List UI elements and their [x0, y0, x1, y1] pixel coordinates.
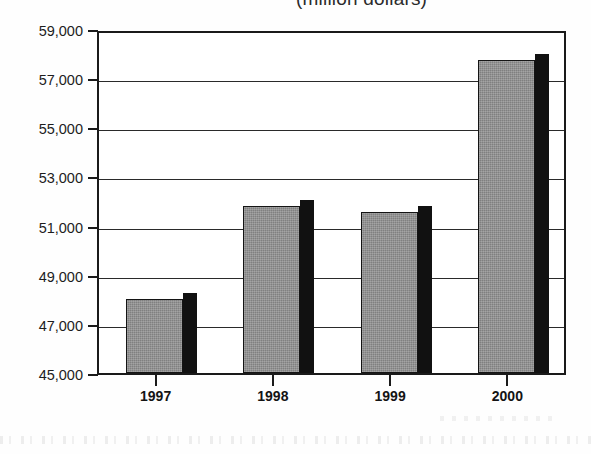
plot-area: [97, 31, 566, 375]
y-axis-tick-label: 57,000: [3, 72, 83, 88]
y-axis-tick-label: 49,000: [3, 269, 83, 285]
y-axis-tick-label: 47,000: [3, 318, 83, 334]
bar-1999: [361, 212, 432, 373]
bar-shadow-face: [418, 206, 432, 373]
y-axis-tick-label: 45,000: [3, 367, 83, 383]
x-axis-tick-label: 1999: [345, 388, 435, 404]
x-axis-tick-mark: [272, 375, 274, 386]
x-axis-tick-label: 1997: [111, 388, 201, 404]
bar-shadow-face: [183, 293, 197, 373]
x-axis-tick-label: 1998: [228, 388, 318, 404]
bar-front-face: [243, 206, 300, 373]
x-axis-tick-mark: [506, 375, 508, 386]
bar-1997: [126, 299, 197, 373]
chart-page: (million dollars) 59,00057,00055,00053,0…: [0, 0, 591, 454]
scan-artifact-speckle: [440, 416, 560, 421]
chart-title-text: (million dollars): [296, 0, 427, 10]
x-axis-tick-label: 2000: [462, 388, 552, 404]
bar-front-face: [126, 299, 183, 373]
bar-2000: [478, 60, 549, 373]
y-axis-tick-label: 51,000: [3, 220, 83, 236]
bar-front-face: [478, 60, 535, 373]
bar-front-face: [361, 212, 418, 373]
x-axis-tick-mark: [389, 375, 391, 386]
scan-artifact-band: [0, 436, 591, 444]
x-axis-tick-mark: [155, 375, 157, 386]
y-axis-tick-label: 59,000: [3, 23, 83, 39]
bar-shadow-face: [300, 200, 314, 373]
y-axis-tick-label: 55,000: [3, 121, 83, 137]
chart-title-clipped: (million dollars): [0, 0, 591, 16]
y-axis-tick-label: 53,000: [3, 170, 83, 186]
bar-1998: [243, 206, 314, 373]
bar-shadow-face: [535, 54, 549, 373]
